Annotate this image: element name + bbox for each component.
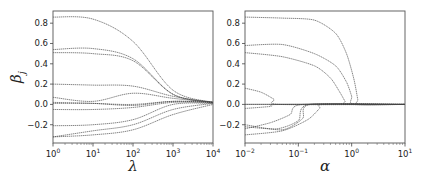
x-tick-label: 101: [398, 147, 413, 159]
coefficient-path-beta1: [53, 17, 213, 103]
coefficient-path-beta7: [245, 104, 405, 129]
axes-frame: [53, 11, 213, 143]
coefficient-path-beta9: [245, 104, 405, 129]
y-tick-label: 0.2: [34, 79, 48, 89]
y-tick-label: 0.0: [34, 99, 48, 109]
y-tick-label: 0.0: [226, 99, 240, 109]
x-tick-label: 10−2: [235, 147, 255, 159]
plot-area: [53, 17, 213, 137]
x-tick-label: 104: [206, 147, 221, 159]
y-tick-label: 0.2: [226, 79, 240, 89]
plot-area: [245, 17, 405, 135]
x-axis-label: λ: [127, 157, 138, 175]
figure: −0.20.00.20.40.60.8100101102103104λβj −0…: [0, 0, 424, 179]
y-tick-label: 0.6: [226, 38, 240, 48]
x-tick-label: 101: [86, 147, 101, 159]
coefficient-path-beta2: [53, 48, 213, 102]
y-axis-label: βj: [7, 71, 27, 84]
y-tick-label: 0.8: [34, 18, 48, 28]
coefficient-path-beta2: [245, 44, 405, 105]
x-tick-label: 100: [46, 147, 61, 159]
y-tick-label: 0.6: [34, 38, 48, 48]
y-tick-label: 0.8: [226, 18, 240, 28]
coefficient-path-beta11: [53, 104, 213, 136]
coefficient-path-beta10: [245, 104, 405, 135]
x-tick-label: 10−1: [288, 147, 308, 159]
y-tick-label: 0.4: [226, 59, 240, 69]
x-axis-label: α: [320, 157, 330, 175]
y-tick-label: −0.2: [219, 120, 240, 130]
lasso-path-panel: −0.20.00.20.40.60.810−210−1100101α: [219, 11, 412, 175]
coefficient-path-beta10: [53, 103, 213, 137]
coefficient-path-beta3: [245, 53, 405, 105]
x-tick-label: 100: [344, 147, 359, 159]
coefficient-path-beta4: [245, 88, 405, 105]
y-tick-label: 0.4: [34, 59, 48, 69]
ridge-path-panel: −0.20.00.20.40.60.8100101102103104λβj: [7, 11, 221, 175]
coefficient-path-beta8: [245, 104, 405, 130]
x-tick-label: 103: [166, 147, 181, 159]
coefficient-path-beta1: [245, 17, 405, 105]
coefficient-path-beta3: [53, 53, 213, 103]
y-tick-label: −0.2: [27, 120, 48, 130]
